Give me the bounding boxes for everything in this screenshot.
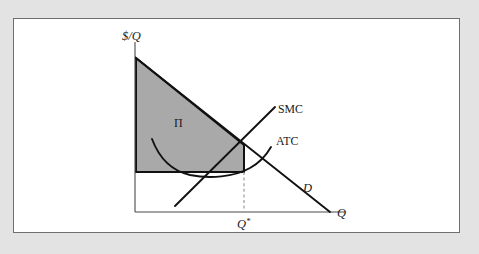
q-star-label: Q*	[237, 216, 251, 231]
profit-region-label: Π	[174, 116, 183, 130]
demand-curve-label: D	[302, 181, 312, 195]
atc-curve-label: ATC	[276, 134, 298, 148]
x-axis-label: Q	[337, 206, 346, 220]
q-star-asterisk: *	[246, 216, 251, 226]
figure-root: $/Q Q D SMC ATC Π Q*	[0, 0, 479, 254]
smc-curve-label: SMC	[278, 102, 303, 116]
economics-plot: $/Q Q D SMC ATC Π Q*	[0, 0, 479, 254]
q-star-letter: Q	[237, 217, 246, 231]
y-axis-label: $/Q	[122, 29, 141, 43]
